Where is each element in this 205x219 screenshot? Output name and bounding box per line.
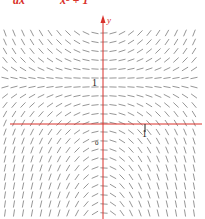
slope-segment (12, 111, 16, 117)
slope-segment (91, 131, 98, 133)
y-tick-label-1: 1 (92, 77, 97, 88)
slope-segment (66, 165, 70, 171)
slope-segment (22, 191, 23, 198)
slope-segment (37, 78, 44, 79)
slope-segment (47, 95, 54, 98)
slope-segment (129, 210, 132, 216)
slope-segment (47, 103, 53, 107)
slope-segment (174, 48, 178, 54)
slope-segment (13, 129, 16, 136)
slope-segment (83, 157, 89, 161)
slope-segment (181, 77, 188, 78)
slope-segment (13, 164, 15, 171)
slope-segment (138, 156, 142, 162)
slope-segment (49, 201, 51, 208)
slope-segment (49, 156, 52, 163)
slope-segment (91, 105, 98, 106)
slope-field-plot: y 1 1 0 (0, 0, 205, 219)
slope-segment (48, 129, 52, 135)
slope-segment (175, 174, 177, 181)
slope-segment (128, 40, 134, 44)
slope-segment (91, 51, 98, 52)
slope-segment (3, 48, 7, 54)
slope-segment (138, 147, 142, 153)
slope-segment (128, 112, 134, 115)
slope-segment (193, 156, 195, 163)
slope-segment (73, 87, 80, 88)
slope-segment (92, 211, 98, 215)
slope-segment (4, 30, 6, 37)
slope-segment (22, 209, 23, 216)
slope-segment (65, 112, 71, 116)
slope-segment (2, 94, 8, 98)
slope-segment (137, 95, 144, 97)
slope-segment (83, 175, 88, 180)
slope-segment (181, 86, 188, 88)
slope-segment (193, 191, 194, 198)
slope-segment (47, 49, 52, 54)
slope-segment (148, 210, 150, 217)
slope-segment (155, 49, 160, 54)
slope-segment (145, 78, 152, 79)
slope-segment (157, 201, 159, 208)
slope-segment (3, 111, 7, 117)
slope-segment (20, 94, 26, 98)
slope-segment (31, 138, 34, 145)
slope-segment (82, 59, 89, 61)
slope-segment (166, 183, 168, 190)
slope-segment (65, 59, 72, 62)
slope-segment (21, 111, 25, 117)
slope-segment (46, 78, 53, 79)
slope-segment (137, 49, 143, 53)
slope-segment (138, 138, 143, 144)
slope-segment (30, 120, 34, 126)
slope-segment (175, 182, 177, 189)
slope-segment (128, 130, 134, 134)
slope-segment (13, 173, 14, 180)
slope-segment (74, 104, 81, 106)
slope-segment (4, 200, 5, 207)
slope-segment (100, 204, 107, 205)
slope-segment (13, 138, 15, 145)
slope-segment (21, 120, 24, 126)
slope-segment (146, 68, 153, 70)
slope-segment (4, 155, 6, 162)
slope-segment (182, 67, 188, 71)
slope-segment (37, 86, 44, 87)
slope-segment (22, 30, 25, 37)
slope-segment (83, 148, 89, 152)
slope-segment (175, 209, 176, 216)
slope-segment (147, 120, 152, 125)
slope-segment (147, 156, 150, 162)
slope-segment (137, 103, 143, 106)
slope-segment (91, 32, 98, 34)
y-axis-label: y (106, 15, 111, 25)
slope-segment (192, 120, 195, 127)
slope-segment (57, 165, 60, 172)
slope-segment (40, 165, 42, 172)
slope-segment (46, 86, 53, 87)
slope-segment (128, 59, 135, 61)
slope-segment (40, 192, 42, 199)
slope-segment (110, 158, 117, 161)
slope-segment (82, 69, 89, 70)
slope-segment (91, 60, 98, 61)
slope-segment (166, 156, 168, 163)
slope-segment (4, 147, 6, 154)
slope-segment (148, 174, 151, 181)
slope-segment (31, 147, 33, 154)
slope-segment (74, 31, 80, 35)
slope-segment (166, 200, 168, 207)
slope-segment (49, 165, 52, 172)
slope-segment (119, 59, 126, 61)
slope-segment (29, 67, 35, 70)
slope-segment (29, 103, 34, 108)
slope-segment (38, 103, 44, 108)
slope-segment (12, 102, 17, 107)
slope-segment (91, 122, 98, 123)
slope-segment (20, 67, 26, 71)
slope-segment (127, 87, 134, 88)
slope-segment (156, 39, 161, 45)
slope-segment (109, 41, 116, 43)
y-axis-arrow-icon (101, 15, 106, 23)
